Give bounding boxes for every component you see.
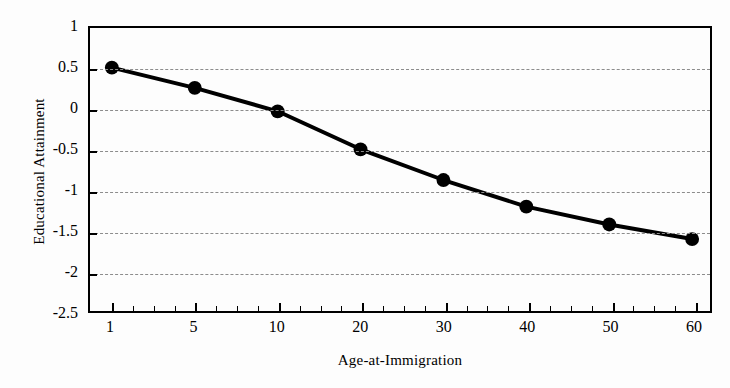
y-tick-mark (90, 151, 97, 153)
data-markers (105, 61, 699, 246)
x-minor-tick-mark (237, 306, 238, 311)
x-axis-title: Age-at-Immigration (88, 352, 712, 369)
x-minor-tick-mark (467, 306, 468, 311)
data-point (436, 173, 450, 187)
gridline (90, 151, 710, 152)
x-minor-tick-mark (654, 306, 655, 311)
x-minor-tick-mark (133, 306, 134, 311)
x-minor-tick-mark (675, 306, 676, 311)
y-tick-label: 0 (32, 102, 78, 114)
x-tick-mark (529, 303, 531, 311)
x-minor-tick-mark (341, 306, 342, 311)
x-tick-label: 10 (247, 318, 307, 336)
data-point (105, 61, 119, 75)
data-point (519, 200, 533, 214)
y-tick-label: -0.5 (32, 143, 78, 155)
data-point (188, 81, 202, 95)
y-tick-label: 1 (32, 20, 78, 32)
x-minor-tick-mark (154, 306, 155, 311)
y-tick-mark (90, 110, 97, 112)
gridline (90, 274, 710, 275)
y-tick-mark (90, 69, 97, 71)
x-tick-label: 1 (80, 318, 140, 336)
x-axis-tick-labels: 15102030405060 (0, 318, 730, 342)
y-tick-label: -2 (32, 266, 78, 278)
x-tick-mark (446, 303, 448, 311)
x-minor-tick-mark (550, 306, 551, 311)
y-tick-label: -1.5 (32, 225, 78, 237)
x-minor-tick-mark (425, 306, 426, 311)
y-tick-mark (90, 233, 97, 235)
gridline (90, 110, 710, 111)
x-tick-mark (696, 303, 698, 311)
x-tick-label: 40 (497, 318, 557, 336)
y-tick-label: -1 (32, 184, 78, 196)
x-tick-label: 30 (414, 318, 474, 336)
chart-figure: Educational Attainment 10.50-0.5-1-1.5-2… (0, 0, 730, 388)
data-point (354, 142, 368, 156)
series-layer (90, 28, 710, 311)
x-minor-tick-mark (383, 306, 384, 311)
x-minor-tick-mark (300, 306, 301, 311)
x-minor-tick-mark (571, 306, 572, 311)
x-tick-mark (279, 303, 281, 311)
x-minor-tick-mark (175, 306, 176, 311)
y-tick-mark (90, 274, 97, 276)
gridline (90, 69, 710, 70)
plot-area (88, 26, 712, 313)
data-point (685, 232, 699, 246)
x-tick-mark (112, 303, 114, 311)
x-tick-mark (613, 303, 615, 311)
x-tick-label: 60 (664, 318, 724, 336)
x-minor-tick-mark (258, 306, 259, 311)
x-minor-tick-mark (508, 306, 509, 311)
x-tick-label: 50 (581, 318, 641, 336)
x-tick-label: 20 (330, 318, 390, 336)
x-tick-mark (195, 303, 197, 311)
y-tick-label: 0.5 (32, 61, 78, 73)
x-tick-label: 5 (163, 318, 223, 336)
gridline (90, 233, 710, 234)
x-minor-tick-mark (321, 306, 322, 311)
data-point (271, 104, 285, 118)
x-minor-tick-mark (404, 306, 405, 311)
x-minor-tick-mark (633, 306, 634, 311)
y-tick-mark (90, 192, 97, 194)
x-minor-tick-mark (487, 306, 488, 311)
x-minor-tick-mark (592, 306, 593, 311)
x-minor-tick-mark (216, 306, 217, 311)
gridline (90, 192, 710, 193)
data-point (602, 218, 616, 232)
x-tick-mark (362, 303, 364, 311)
